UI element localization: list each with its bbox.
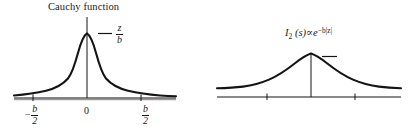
cauchy-xtick-label-pos: b 2 — [142, 104, 149, 126]
cauchy-panel-title: Cauchy function — [48, 2, 119, 13]
cauchy-xtick-neg-sign: − — [25, 110, 31, 120]
exponential-panel-title: I2 (s)∝e−b|z| — [285, 27, 332, 40]
cauchy-xtick-neg-fraction: b 2 — [31, 104, 38, 126]
cauchy-peak-fraction: z b — [116, 23, 123, 45]
cauchy-peak-numerator: z — [116, 23, 123, 35]
figure-root: Cauchy function z b − b 2 0 b 2 — [0, 0, 411, 136]
cauchy-xtick-label-zero: 0 — [84, 106, 89, 116]
cauchy-xtick-label-neg: − b 2 — [25, 104, 38, 126]
cauchy-xtick-pos-fraction: b 2 — [142, 104, 149, 126]
cauchy-function-panel: Cauchy function z b − b 2 0 b 2 — [0, 0, 205, 136]
cauchy-xtick-neg-denominator: 2 — [31, 116, 38, 127]
exponential-argument: (s) — [295, 27, 306, 38]
cauchy-xtick-neg-group: − b 2 — [25, 104, 38, 126]
exponential-symbol-subscript: 2 — [289, 32, 293, 41]
exponential-function-panel: I2 (s)∝e−b|z| 1 − 1 b 0 1 b — [205, 0, 411, 136]
cauchy-xtick-pos-denominator: 2 — [142, 116, 149, 127]
cauchy-xtick-neg-numerator: b — [31, 104, 38, 116]
exponential-curve — [217, 53, 401, 88]
cauchy-peak-denominator: b — [116, 35, 123, 46]
exponential-exponent: −b|z| — [318, 26, 332, 35]
exponential-plot-svg — [205, 0, 411, 136]
cauchy-peak-value-label: z b — [116, 23, 123, 45]
cauchy-curve — [14, 33, 176, 96]
cauchy-xtick-pos-numerator: b — [142, 104, 149, 116]
